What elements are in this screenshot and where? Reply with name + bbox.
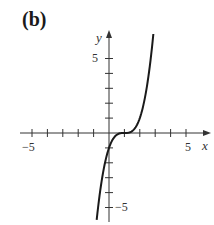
y-axis xyxy=(105,30,113,222)
y-axis-label: y xyxy=(94,30,102,45)
x-max-tick-label: 5 xyxy=(185,140,191,154)
x-axis-label: x xyxy=(201,138,208,153)
y-axis-arrow-icon xyxy=(106,30,112,38)
y-max-tick-label: 5 xyxy=(92,51,98,65)
x-axis-arrow-icon xyxy=(203,130,211,136)
y-min-tick-label: −5 xyxy=(115,200,128,214)
x-min-tick-label: −5 xyxy=(22,140,35,154)
chart-plot: −5 5 x 5 −5 y xyxy=(0,0,214,225)
cubic-curve xyxy=(97,34,154,220)
